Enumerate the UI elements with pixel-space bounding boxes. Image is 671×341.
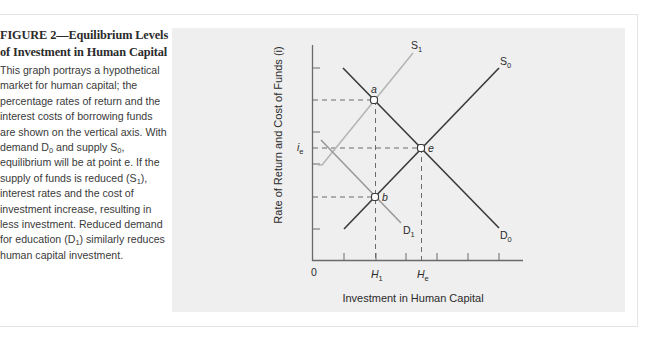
label-d0: D0 [500, 229, 512, 244]
curve-labels: S1 S0 D1 D0 [403, 39, 512, 244]
label-d1: D1 [403, 224, 415, 239]
label-s0: S0 [500, 55, 511, 70]
x-tick-label-h1: H1 [371, 268, 383, 283]
curves [318, 53, 499, 229]
point-e [418, 145, 425, 152]
label-point-e: e [428, 142, 434, 154]
x-tick-label-he: He [417, 268, 429, 283]
x-tick-label-0: 0 [311, 266, 317, 278]
y-tick-label-ie: ie [297, 141, 304, 156]
dashed-guides [313, 100, 422, 260]
point-labels: a e b [371, 83, 434, 203]
x-axis-label: Investment in Human Capital [342, 292, 483, 304]
label-point-b: b [382, 191, 388, 203]
chart: S1 S0 D1 D0 a e b 0 H1 He ie Investment … [0, 0, 671, 341]
point-b [372, 194, 379, 201]
label-s1: S1 [411, 39, 422, 54]
label-point-a: a [371, 83, 377, 95]
point-a [371, 97, 378, 104]
y-axis-label: Rate of Return and Cost of Funds (i) [272, 46, 284, 223]
